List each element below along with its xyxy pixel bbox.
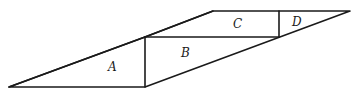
region-label-d: D xyxy=(291,15,302,29)
region-label-c: C xyxy=(233,17,242,31)
region-label-b: B xyxy=(180,46,190,60)
parallelogram-diagram: A B C D xyxy=(0,0,359,94)
region-label-a: A xyxy=(107,60,117,74)
